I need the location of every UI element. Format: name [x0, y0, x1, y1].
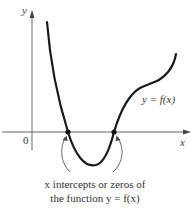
origin-label: 0: [23, 134, 29, 146]
curve-label: y = f(x): [142, 93, 175, 105]
x-axis-arrow-icon: [183, 130, 191, 135]
y-axis-arrow-icon: [30, 10, 35, 18]
zero-point-left: [65, 129, 70, 134]
caption-line-1: x intercepts or zeros of: [20, 177, 170, 191]
pointer-arrow-right: [113, 138, 122, 172]
arrowhead-left-icon: [63, 136, 68, 142]
pointer-arrow-left: [62, 138, 70, 172]
y-axis-label: y: [22, 4, 27, 16]
caption-line-2: the function y = f(x): [20, 191, 170, 205]
zero-point-right: [111, 129, 116, 134]
x-axis-label: x: [180, 136, 185, 148]
arrowhead-right-icon: [116, 136, 121, 142]
